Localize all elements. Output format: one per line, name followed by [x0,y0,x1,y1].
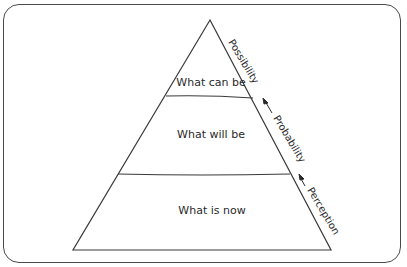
tier-label-top: What can be [176,76,246,89]
arrow-icon-perception [299,174,305,186]
side-label-probability: Probability [271,113,308,164]
arrow-icon-probability [263,98,272,113]
tier-divider-top [166,96,253,98]
tier-divider-middle [118,174,290,175]
pyramid-diagram: What can be What will be What is now Pos… [0,0,407,267]
tier-label-bottom: What is now [178,204,245,217]
tier-label-middle: What will be [177,128,245,141]
